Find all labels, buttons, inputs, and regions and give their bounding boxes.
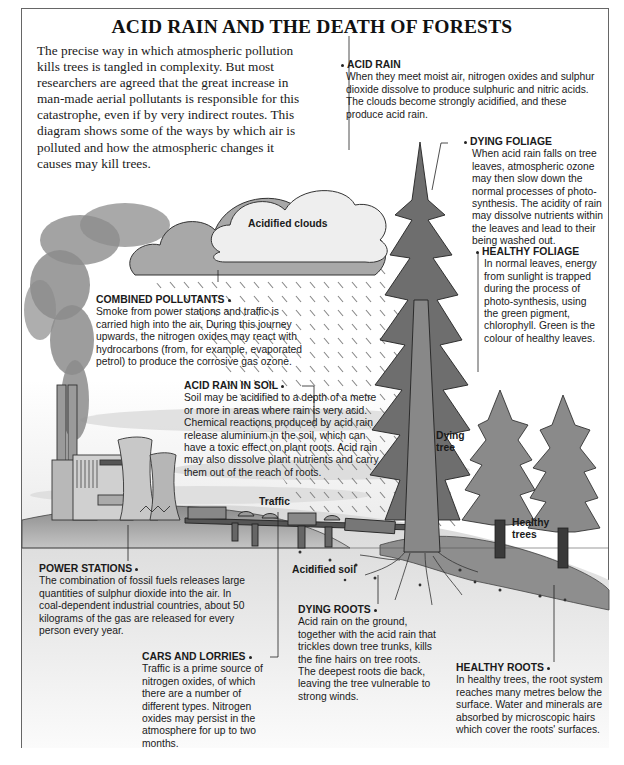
caption-dying-foliage: DYING FOLIAGE When acid rain falls on tr… <box>472 136 612 248</box>
label-acidified-clouds: Acidified clouds <box>248 218 328 230</box>
page-title: ACID RAIN AND THE DEATH OF FORESTS <box>0 16 624 38</box>
caption-body: Smoke from power stations and traffic is… <box>96 306 302 367</box>
caption-heading: ACID RAIN <box>347 59 401 70</box>
caption-heading: HEALTHY FOLIAGE <box>482 246 579 257</box>
label-dying-tree-line2: tree <box>436 442 455 453</box>
caption-healthy-roots: HEALTHY ROOTS In healthy trees, the root… <box>456 662 606 736</box>
caption-body: In normal leaves, energy from sunlight i… <box>484 258 597 343</box>
leader-dot <box>341 64 344 67</box>
caption-acid-rain: ACID RAIN When they meet moist air, nitr… <box>346 59 596 121</box>
caption-heading: HEALTHY ROOTS <box>456 662 544 673</box>
caption-cars-and-lorries: CARS AND LORRIES Traffic is a prime sour… <box>142 651 268 750</box>
leader-dot <box>135 568 138 571</box>
label-dying-tree: Dying tree <box>436 430 465 454</box>
caption-body: When they meet moist air, nitrogen oxide… <box>346 71 594 119</box>
caption-heading: CARS AND LORRIES <box>142 651 246 662</box>
caption-combined-pollutants: COMBINED POLLUTANTS Smoke from power sta… <box>96 294 308 368</box>
label-healthy-trees-line1: Healthy <box>512 517 549 528</box>
healthy-tree-right <box>528 395 600 568</box>
label-traffic: Traffic <box>259 496 290 508</box>
caption-heading: DYING ROOTS <box>298 604 371 615</box>
leader-dot <box>374 609 377 612</box>
leader-dot <box>249 656 252 659</box>
caption-body: When acid rain falls on tree leaves, atm… <box>472 148 603 246</box>
caption-heading: ACID RAIN IN SOIL <box>184 380 278 391</box>
label-acidified-soil: Acidified soil <box>292 564 356 576</box>
caption-dying-roots: DYING ROOTS Acid rain on the ground, tog… <box>298 604 440 703</box>
caption-body: The combination of fossil fuels releases… <box>39 575 245 636</box>
caption-acid-rain-in-soil: ACID RAIN IN SOIL Soil may be acidified … <box>184 380 384 479</box>
leader-dot <box>547 667 550 670</box>
caption-heading: POWER STATIONS <box>39 563 132 574</box>
leader-dot <box>476 251 479 254</box>
label-healthy-trees: Healthy trees <box>512 517 549 541</box>
leader-dot <box>281 385 284 388</box>
leader-dot <box>464 141 467 144</box>
caption-body: Traffic is a prime source of nitrogen ox… <box>142 663 263 748</box>
caption-heading: DYING FOLIAGE <box>470 136 552 147</box>
caption-heading: COMBINED POLLUTANTS <box>96 294 225 305</box>
label-healthy-trees-line2: trees <box>512 529 537 540</box>
intro-paragraph: The precise way in which atmospheric pol… <box>37 43 312 172</box>
caption-body: Soil may be acidified to a depth of a me… <box>184 392 379 477</box>
caption-power-stations: POWER STATIONS The combination of fossil… <box>39 563 251 637</box>
caption-body: Acid rain on the ground, together with t… <box>298 616 436 701</box>
caption-body: In healthy trees, the root system reache… <box>456 674 603 735</box>
label-dying-tree-line1: Dying <box>436 430 465 441</box>
caption-healthy-foliage: HEALTHY FOLIAGE In normal leaves, energy… <box>484 246 602 345</box>
leader-dot <box>228 299 231 302</box>
